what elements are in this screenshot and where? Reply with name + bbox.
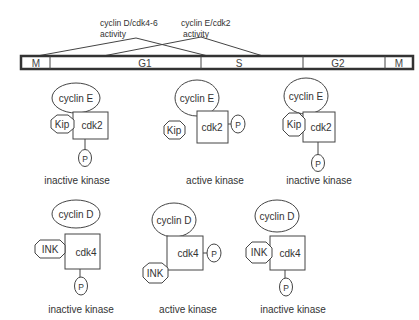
kinase-status: inactive kinase [260, 304, 326, 315]
inhibitor-label: Kip [55, 119, 70, 130]
cyclin-d-complex-inactive-1: cyclin D INK cdk4 P inactive kinase [35, 200, 114, 315]
cdk-label: cdk4 [75, 247, 97, 258]
cyclin-d-complex-inactive-2: cyclin D INK cdk4 P inactive kinase [246, 200, 326, 315]
cyclin-d-activity-label: cyclin D/cdk4-6 activity [100, 18, 158, 39]
phosphate-label: P [211, 249, 217, 259]
inhibitor-label: Kip [167, 125, 182, 136]
phosphate-label: P [82, 154, 88, 164]
cyclin-label: cyclin D [259, 211, 294, 222]
inhibitor-label: INK [251, 247, 268, 258]
inhibitor-label: INK [42, 244, 59, 255]
cdk-label: cdk2 [81, 120, 103, 131]
phosphate-label: P [283, 283, 289, 293]
kinase-status: inactive kinase [48, 304, 114, 315]
phosphate-label: P [315, 159, 321, 169]
kinase-status: active kinase [159, 304, 217, 315]
cyclin-label: cyclin D [156, 215, 191, 226]
cyclin-label: cyclin E [289, 91, 324, 102]
inhibitor-label: INK [147, 268, 164, 279]
cyclin-d-activity-line2: activity [100, 29, 127, 39]
cyclin-d-complex-active: cyclin D cdk4 P INK active kinase [143, 203, 221, 315]
cyclin-label: cyclin E [180, 93, 215, 104]
cdk-label: cdk4 [279, 248, 301, 259]
cyclin-e-activity-line1: cyclin E/cdk2 [181, 18, 231, 28]
phase-g1: G1 [138, 58, 152, 69]
cyclin-e-complex-active: cyclin E cdk2 P Kip active kinase [164, 80, 245, 186]
cyclin-label: cyclin D [58, 209, 93, 220]
cyclin-d-activity-line1: cyclin D/cdk4-6 [100, 18, 158, 28]
cyclin-e-activity-label: cyclin E/cdk2 activity [181, 18, 231, 39]
cdk-label: cdk2 [201, 122, 223, 133]
kinase-status: inactive kinase [286, 175, 352, 186]
phase-m-end: M [395, 58, 403, 69]
inhibitor-label: Kip [287, 119, 302, 130]
kinase-status: inactive kinase [44, 175, 110, 186]
cell-cycle-diagram: cyclin D/cdk4-6 activity cyclin E/cdk2 a… [0, 0, 419, 320]
cdk-label: cdk2 [310, 122, 332, 133]
kinase-status: active kinase [186, 175, 244, 186]
cell-cycle-bar: M G1 S G2 M [21, 56, 413, 69]
phase-s: S [236, 58, 243, 69]
phase-m-start: M [32, 58, 40, 69]
cdk-label: cdk4 [177, 248, 199, 259]
phosphate-label: P [235, 120, 241, 130]
cyclin-e-complex-inactive-1: cyclin E Kip cdk2 P inactive kinase [44, 83, 110, 186]
phase-g2: G2 [331, 58, 345, 69]
cyclin-label: cyclin E [59, 93, 94, 104]
phosphate-label: P [78, 282, 84, 292]
cyclin-e-complex-inactive-2: cyclin E Kip cdk2 P inactive kinase [283, 78, 352, 186]
